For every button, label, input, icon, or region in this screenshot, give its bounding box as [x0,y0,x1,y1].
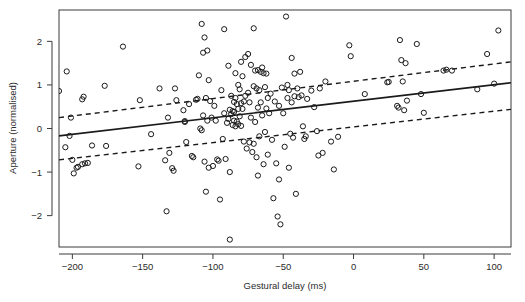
y-axis-label: Aperture (normalised) [7,82,18,174]
y-tick-label: −2 [31,210,42,221]
x-tick-label: −100 [202,261,223,272]
x-tick-label: 100 [486,261,502,272]
x-axis-label: Gestural delay (ms) [244,280,327,291]
y-tick-label: 2 [37,36,42,47]
x-tick-label: 0 [351,261,356,272]
x-tick-label: −50 [275,261,291,272]
x-tick-label: 50 [419,261,430,272]
scatter-plot-figure: −200−150−100−50050100 −2−1012 Gestural d… [0,0,525,302]
plot-canvas: −200−150−100−50050100 −2−1012 Gestural d… [0,0,525,302]
x-tick-label: −150 [132,261,153,272]
y-tick-label: −1 [31,167,42,178]
y-tick-label: 0 [37,123,42,134]
x-tick-label: −200 [62,261,83,272]
figure-background [0,0,525,302]
y-tick-label: 1 [37,79,42,90]
